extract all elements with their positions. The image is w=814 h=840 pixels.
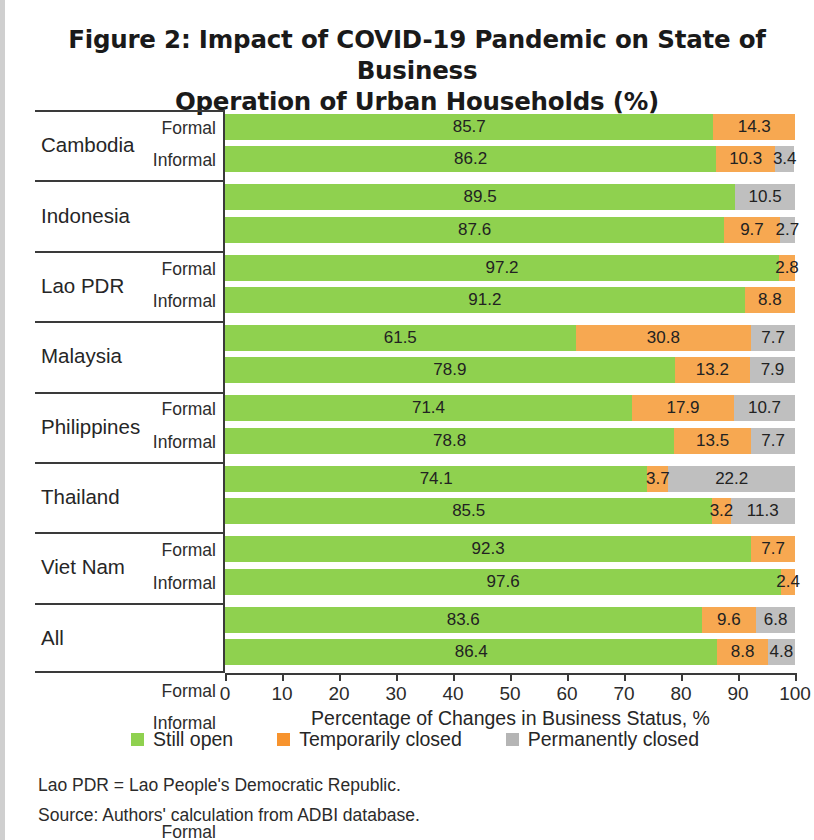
bar-value-label: 14.3: [738, 117, 771, 137]
bar-value-label: 97.2: [485, 258, 518, 278]
bar-value-label: 7.7: [761, 328, 785, 348]
plot-area: 85.714.386.210.33.489.510.587.69.72.797.…: [225, 110, 795, 673]
x-axis-tick-label: 10: [271, 683, 292, 705]
legend-item-permanently-closed: Permanently closed: [506, 728, 699, 751]
country-label: Thailand: [41, 485, 120, 509]
bar-value-label: 17.9: [666, 398, 699, 418]
bar-segment-temporarily-closed: 30.8: [576, 325, 752, 351]
x-axis-tick-label: 60: [556, 683, 577, 705]
bar-value-label: 86.4: [455, 642, 488, 662]
bar-value-label: 92.3: [472, 539, 505, 559]
bar-segment-permanently-closed: 22.2: [668, 466, 795, 492]
sector-label-formal: Formal: [162, 118, 216, 139]
bar-value-label: 85.5: [452, 501, 485, 521]
bar-value-label: 78.8: [433, 431, 466, 451]
bar-segment-temporarily-closed: 9.7: [724, 217, 779, 243]
bar-row: 92.37.7: [225, 536, 795, 562]
country-label: Philippines: [41, 415, 140, 439]
bar-value-label: 7.9: [761, 360, 785, 380]
bar-segment-still-open: 83.6: [225, 607, 702, 633]
bar-segment-temporarily-closed: 8.8: [745, 287, 795, 313]
x-axis-tick: [339, 673, 341, 681]
abbreviation-note: Lao PDR = Lao People's Democratic Republ…: [38, 770, 778, 800]
bar-segment-still-open: 97.2: [225, 255, 779, 281]
bar-segment-still-open: 87.6: [225, 217, 724, 243]
category-label-column: CambodiaFormalInformalIndonesiaFormalInf…: [35, 110, 225, 673]
x-axis-tick: [225, 673, 227, 681]
country-label: Cambodia: [41, 133, 134, 157]
legend-label-temporarily-closed: Temporarily closed: [299, 728, 462, 751]
bar-value-label: 10.7: [748, 398, 781, 418]
x-axis-tick-label: 100: [779, 683, 811, 705]
bar-row: 61.530.87.7: [225, 325, 795, 351]
bar-value-label: 13.2: [696, 360, 729, 380]
legend-item-still-open: Still open: [131, 728, 233, 751]
source-note: Source: Authors' calculation from ADBI d…: [38, 800, 778, 830]
bar-value-label: 8.8: [731, 642, 755, 662]
figure-notes: Lao PDR = Lao People's Democratic Republ…: [38, 770, 778, 830]
bar-value-label: 7.7: [761, 431, 785, 451]
country-label: Malaysia: [41, 344, 122, 368]
figure-container: Figure 2: Impact of COVID-19 Pandemic on…: [0, 0, 814, 840]
x-axis-tick: [681, 673, 683, 681]
bar-segment-permanently-closed: 11.3: [731, 498, 795, 524]
bar-value-label: 22.2: [715, 469, 748, 489]
bar-value-label: 89.5: [464, 187, 497, 207]
x-axis-tick: [282, 673, 284, 681]
country-label: Lao PDR: [41, 274, 124, 298]
country-group-lao-pdr: Lao PDRFormalInformal: [35, 253, 225, 323]
country-group-all: AllFormalInformal: [35, 605, 225, 675]
country-group-viet-nam: Viet NamFormalInformal: [35, 534, 225, 604]
bar-value-label: 13.5: [696, 431, 729, 451]
x-axis-tick-label: 80: [670, 683, 691, 705]
bar-value-label: 87.6: [458, 220, 491, 240]
bar-segment-temporarily-closed: 13.2: [675, 357, 750, 383]
bar-segment-still-open: 85.5: [225, 498, 712, 524]
country-group-cambodia: CambodiaFormalInformal: [35, 112, 225, 182]
figure-title-line-1: Figure 2: Impact of COVID-19 Pandemic on…: [33, 24, 801, 86]
legend-item-temporarily-closed: Temporarily closed: [277, 728, 462, 751]
chart-legend: Still open Temporarily closed Permanentl…: [35, 728, 795, 751]
x-axis-tick-label: 50: [499, 683, 520, 705]
figure-title: Figure 2: Impact of COVID-19 Pandemic on…: [33, 24, 801, 117]
country-label: Indonesia: [41, 204, 130, 228]
bar-segment-temporarily-closed: 8.8: [717, 639, 767, 665]
bar-value-label: 8.8: [758, 290, 782, 310]
bar-value-label: 61.5: [384, 328, 417, 348]
bar-segment-still-open: 78.9: [225, 357, 675, 383]
bar-segment-temporarily-closed: 17.9: [632, 395, 734, 421]
bar-row: 71.417.910.7: [225, 395, 795, 421]
bar-segment-still-open: 97.6: [225, 569, 781, 595]
legend-label-permanently-closed: Permanently closed: [528, 728, 699, 751]
bar-row: 86.48.84.8: [225, 639, 795, 665]
bar-segment-permanently-closed: 3.4: [775, 146, 794, 172]
legend-label-still-open: Still open: [153, 728, 233, 751]
bar-value-label: 71.4: [412, 398, 445, 418]
bar-segment-still-open: 78.8: [225, 428, 674, 454]
bar-row: 83.69.66.8: [225, 607, 795, 633]
x-axis-tick-label: 40: [442, 683, 463, 705]
bar-segment-permanently-closed: 10.7: [734, 395, 795, 421]
bar-segment-permanently-closed: 10.5: [735, 184, 795, 210]
x-axis-tick: [567, 673, 569, 681]
country-label: Viet Nam: [41, 555, 125, 579]
bar-segment-temporarily-closed: 14.3: [713, 114, 795, 140]
bar-segment-temporarily-closed: 10.3: [716, 146, 775, 172]
legend-swatch-permanently-closed-icon: [506, 733, 519, 746]
bar-segment-temporarily-closed: 2.8: [779, 255, 795, 281]
bar-value-label: 30.8: [647, 328, 680, 348]
bar-segment-permanently-closed: 6.8: [756, 607, 795, 633]
bar-value-label: 97.6: [487, 572, 520, 592]
bar-segment-still-open: 61.5: [225, 325, 576, 351]
sector-label-informal: Informal: [153, 150, 216, 171]
bar-value-label: 11.3: [747, 501, 779, 521]
x-axis-tick: [510, 673, 512, 681]
stacked-bar-chart: CambodiaFormalInformalIndonesiaFormalInf…: [35, 110, 795, 673]
bar-value-label: 3.4: [773, 149, 797, 169]
x-axis-tick-label: 70: [613, 683, 634, 705]
x-axis-tick: [624, 673, 626, 681]
bar-row: 78.813.57.7: [225, 428, 795, 454]
x-axis-tick-label: 30: [385, 683, 406, 705]
bar-value-label: 7.7: [761, 539, 785, 559]
x-axis-tick: [738, 673, 740, 681]
